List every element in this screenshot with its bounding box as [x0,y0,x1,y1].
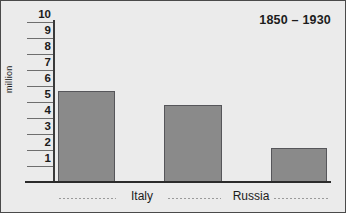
y-tick-label: 7 [27,56,51,69]
y-tick-line [27,22,53,23]
bar-3 [271,148,327,182]
y-tick-label: 5 [27,88,51,101]
y-tick-label: 10 [27,8,51,21]
x-axis-label-italy: Italy [121,189,163,203]
y-tick-label: 2 [27,136,51,149]
y-tick-line [27,102,53,103]
y-tick-label: 3 [27,120,51,133]
bar-1 [58,91,115,182]
y-tick-label: 4 [27,104,51,117]
y-tick-label: 8 [27,40,51,53]
y-axis-spine [53,20,55,182]
x-axis-label-russia: Russia [226,189,276,203]
x-axis-baseline [25,181,331,183]
y-tick-line [27,86,53,87]
y-tick-line [27,38,53,39]
y-tick-label: 9 [27,24,51,37]
plot-area: 10 9 8 7 6 5 4 3 [1,1,346,213]
x-axis-blank-1 [58,197,116,200]
y-tick-line [27,118,53,119]
y-tick-line [27,134,53,135]
x-axis-blank-2 [167,197,221,200]
y-tick-label: 1 [27,152,51,165]
y-tick-line [27,166,53,167]
y-tick-line [27,54,53,55]
x-axis-blank-3 [273,197,329,200]
bar-2 [164,105,222,182]
y-tick-line [27,70,53,71]
bar-chart: 1850 – 1930 million 10 9 8 7 6 5 [0,0,346,213]
y-tick-label: 6 [27,72,51,85]
y-tick-line [27,150,53,151]
